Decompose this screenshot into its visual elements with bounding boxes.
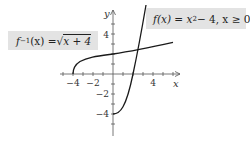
inverse-mid: (x) =	[30, 35, 56, 47]
x-tick-label: −2	[86, 78, 99, 88]
y-axis-label: y	[103, 8, 110, 19]
y-tick-label: 4	[103, 30, 109, 40]
y-tick-label: −4	[96, 109, 110, 119]
x-tick-label: −4	[66, 78, 80, 88]
y-tick-label: −2	[96, 89, 109, 99]
radical-icon: √	[56, 35, 63, 47]
function-label: f(x) = x2 − 4, x ≥ 0	[146, 8, 246, 29]
function-curve	[113, 5, 146, 114]
x-tick-label: 4	[150, 78, 156, 88]
inverse-function-label: f−1(x) = √x + 4	[8, 31, 98, 50]
y-axis	[111, 10, 116, 136]
function-text: f(x) = x	[153, 13, 192, 25]
radicand: x + 4	[63, 34, 91, 47]
inverse-exponent: −1	[20, 37, 30, 45]
function-rest: − 4, x ≥ 0	[197, 13, 250, 25]
x-axis	[60, 72, 180, 77]
x-axis-label: x	[173, 78, 179, 89]
